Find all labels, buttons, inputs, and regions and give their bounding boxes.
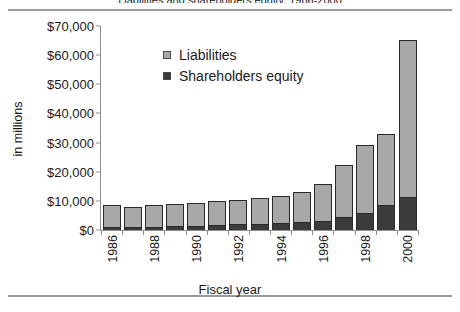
x-tick-label: 1994 (275, 235, 289, 263)
chart-legend: Liabilities Shareholders equity (163, 44, 304, 86)
bar-segment-liabilities[interactable] (230, 201, 246, 225)
x-axis-title: Fiscal year (0, 282, 460, 297)
legend-item-shareholders-equity: Shareholders equity (163, 65, 304, 86)
bar-segment-shareholders-equity[interactable] (188, 226, 204, 230)
bar-segment-liabilities[interactable] (146, 206, 162, 226)
bar-column[interactable] (355, 26, 376, 230)
bar-segment-liabilities[interactable] (294, 193, 310, 222)
figure-container: Liabilities and shareholders equity, 198… (0, 0, 460, 312)
bar-segment-shareholders-equity[interactable] (104, 227, 120, 230)
bar-column[interactable] (312, 26, 333, 230)
bar-stack[interactable] (208, 201, 226, 230)
y-tick-mark (96, 26, 101, 27)
y-tick-mark (96, 55, 101, 56)
bar-segment-shareholders-equity[interactable] (252, 224, 268, 230)
y-tick-label: $0 (24, 223, 94, 238)
bar-column[interactable] (334, 26, 355, 230)
x-axis-tick-labels: 19861988199019921994199619982000 (101, 235, 418, 279)
y-tick-mark (96, 84, 101, 85)
bar-stack[interactable] (335, 165, 353, 230)
bar-segment-shareholders-equity[interactable] (357, 213, 373, 230)
bar-segment-liabilities[interactable] (125, 208, 141, 228)
bar-segment-shareholders-equity[interactable] (315, 221, 331, 230)
y-tick-mark (96, 200, 101, 201)
legend-item-liabilities: Liabilities (163, 44, 304, 65)
bar-stack[interactable] (229, 200, 247, 230)
legend-swatch-equity-icon (163, 72, 171, 80)
bar-column[interactable] (376, 26, 397, 230)
y-tick-label: $10,000 (24, 193, 94, 208)
bar-segment-shareholders-equity[interactable] (146, 227, 162, 230)
bar-stack[interactable] (272, 196, 290, 230)
legend-label-shareholders-equity: Shareholders equity (179, 68, 304, 84)
bar-stack[interactable] (314, 184, 332, 230)
x-tick-mark (418, 230, 419, 235)
bar-column[interactable] (397, 26, 418, 230)
x-tick-label: 1996 (317, 235, 331, 263)
bar-segment-shareholders-equity[interactable] (167, 226, 183, 230)
bar-segment-shareholders-equity[interactable] (230, 224, 246, 230)
y-tick-label: $70,000 (24, 19, 94, 34)
bar-segment-liabilities[interactable] (400, 41, 416, 198)
bar-segment-liabilities[interactable] (357, 146, 373, 213)
y-tick-mark (96, 142, 101, 143)
legend-label-liabilities: Liabilities (179, 47, 237, 63)
y-axis-title: in millions (11, 84, 25, 174)
bar-segment-liabilities[interactable] (315, 185, 331, 221)
bar-column[interactable] (101, 26, 122, 230)
x-tick-label: 2000 (401, 235, 415, 263)
frame-rule-top (8, 9, 452, 11)
bar-segment-liabilities[interactable] (252, 199, 268, 224)
y-tick-label: $20,000 (24, 164, 94, 179)
bar-stack[interactable] (145, 205, 163, 230)
y-tick-mark (96, 113, 101, 114)
bar-column[interactable] (143, 26, 164, 230)
y-tick-label: $40,000 (24, 106, 94, 121)
bar-segment-shareholders-equity[interactable] (125, 227, 141, 230)
y-tick-mark (96, 230, 101, 231)
bar-stack[interactable] (187, 203, 205, 231)
bar-stack[interactable] (399, 40, 417, 230)
y-axis-tick-labels: $70,000$60,000$50,000$40,000$30,000$20,0… (24, 14, 94, 234)
bar-stack[interactable] (166, 204, 184, 230)
bar-segment-shareholders-equity[interactable] (209, 225, 225, 230)
bar-segment-shareholders-equity[interactable] (378, 205, 394, 230)
bar-column[interactable] (122, 26, 143, 230)
bar-segment-shareholders-equity[interactable] (400, 197, 416, 230)
bar-segment-shareholders-equity[interactable] (273, 223, 289, 230)
x-tick-label: 1992 (232, 235, 246, 263)
bar-segment-liabilities[interactable] (209, 202, 225, 225)
x-axis-line (100, 230, 418, 231)
bar-stack[interactable] (251, 198, 269, 230)
x-tick-label: 1986 (106, 235, 120, 263)
y-tick-mark (96, 171, 101, 172)
bar-segment-shareholders-equity[interactable] (336, 217, 352, 230)
y-tick-label: $60,000 (24, 48, 94, 63)
y-tick-label: $30,000 (24, 135, 94, 150)
bar-segment-liabilities[interactable] (336, 166, 352, 218)
x-tick-label: 1990 (190, 235, 204, 263)
bar-segment-liabilities[interactable] (167, 205, 183, 226)
figure-title: Liabilities and shareholders equity, 198… (0, 0, 460, 3)
bar-segment-liabilities[interactable] (273, 197, 289, 223)
bar-segment-liabilities[interactable] (378, 135, 394, 205)
x-tick-label: 1988 (148, 235, 162, 263)
y-tick-label: $50,000 (24, 77, 94, 92)
bar-stack[interactable] (124, 207, 142, 230)
bar-stack[interactable] (356, 145, 374, 231)
bar-segment-liabilities[interactable] (104, 206, 120, 227)
bar-stack[interactable] (293, 192, 311, 230)
bar-stack[interactable] (377, 134, 395, 230)
bar-stack[interactable] (103, 205, 121, 230)
x-tick-label: 1998 (359, 235, 373, 263)
legend-swatch-liabilities-icon (163, 51, 171, 59)
bar-segment-liabilities[interactable] (188, 204, 204, 226)
bar-segment-shareholders-equity[interactable] (294, 222, 310, 230)
